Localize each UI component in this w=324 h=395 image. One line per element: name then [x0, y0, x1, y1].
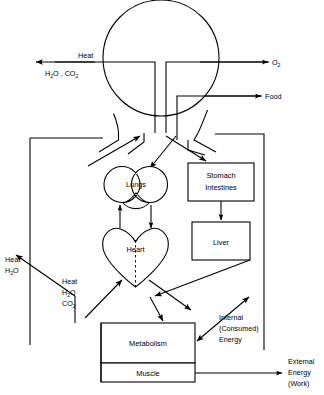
label-internal-line1: Internal	[219, 313, 243, 322]
stomach-label-line1: Stomach	[206, 171, 235, 180]
h2o-co2-top-mid: O , CO	[53, 69, 76, 78]
left-channel-wall	[128, 133, 144, 154]
label-h2o-mid: H2O	[62, 288, 76, 298]
right-neck-contour	[194, 110, 216, 152]
flow-diagram: Lungs Heart Stomach Intestines Liver	[0, 0, 324, 395]
metabolism-label: Metabolism	[129, 339, 167, 348]
boundary-left	[30, 138, 103, 345]
organ-stomach-intestines[interactable]: Stomach Intestines	[188, 163, 254, 201]
label-food: Food	[265, 92, 281, 101]
body-outline	[99, 0, 219, 152]
label-h2o-co2-top: H2O , CO2	[45, 69, 78, 79]
label-h2o-left: H2O	[5, 266, 19, 276]
label-heat-top: Heat	[78, 51, 93, 60]
label-internal-line3: Energy	[219, 335, 242, 344]
label-oxygen: O2	[272, 58, 281, 68]
left-neck-contour	[99, 114, 119, 153]
label-external-line2: Energy	[288, 368, 311, 377]
organ-liver[interactable]: Liver	[192, 222, 250, 260]
arrow-from-trachea	[150, 136, 176, 168]
h2o-mid-rest: O	[70, 288, 76, 297]
diagram-canvas: Lungs Heart Stomach Intestines Liver	[0, 0, 324, 395]
label-co2-mid: CO2	[62, 299, 76, 309]
heat-output-arrows	[16, 62, 95, 323]
heart-label: Heart	[126, 245, 144, 254]
metabolism-to-heart-return	[85, 280, 122, 318]
liver-label: Liver	[213, 238, 230, 247]
oxygen-sub: 2	[278, 62, 281, 68]
co2-mid-sub: 2	[73, 303, 76, 309]
lungs-label: Lungs	[126, 180, 146, 189]
h2o-co2-top-sub2: 2	[75, 73, 78, 79]
muscle-label: Muscle	[136, 369, 159, 378]
liver-to-metabolism-path	[155, 260, 250, 296]
h2o-left-rest: O	[13, 266, 19, 275]
label-external-line1: External	[288, 357, 315, 366]
systemic-circulation	[85, 260, 250, 321]
organ-metabolism[interactable]: Metabolism	[101, 323, 195, 363]
heart-shape	[103, 228, 169, 287]
label-internal-line2: (Consumed)	[219, 324, 259, 333]
organ-heart[interactable]: Heart	[103, 228, 169, 287]
co2-mid-c: CO	[62, 299, 73, 308]
head-circle	[103, 0, 219, 116]
label-heat-left: Heat	[5, 255, 20, 264]
organ-lungs[interactable]: Lungs	[104, 166, 168, 208]
right-channel-wall	[188, 140, 205, 155]
junction-to-metabolism	[150, 297, 163, 321]
stomach-box	[188, 163, 254, 201]
label-heat-mid: Heat	[62, 277, 77, 286]
stomach-label-line2: Intestines	[205, 183, 237, 192]
organ-muscle[interactable]: Muscle	[101, 363, 195, 382]
label-external-line3: (Work)	[288, 379, 309, 388]
arrow-food-to-stomach	[166, 136, 206, 161]
airway-arrows	[88, 136, 176, 168]
